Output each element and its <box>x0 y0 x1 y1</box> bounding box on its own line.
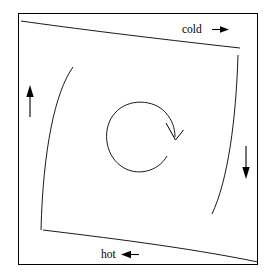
canvas-background <box>0 0 273 280</box>
hot-label: hot <box>101 248 117 260</box>
convection-diagram-figure: cold hot <box>0 0 273 280</box>
diagram-canvas: cold hot <box>0 0 273 280</box>
cold-label: cold <box>182 23 202 35</box>
